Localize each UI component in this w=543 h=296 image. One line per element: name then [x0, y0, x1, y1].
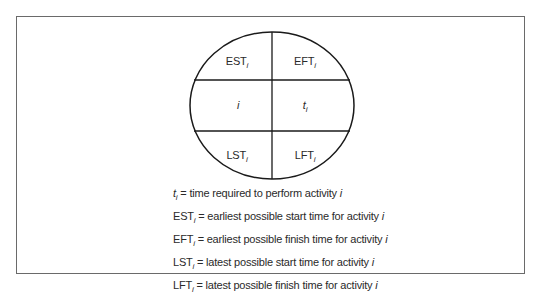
cell-eft: EFTi [294, 55, 316, 70]
legend-row-lft: LFTi = latest possible finish time for a… [173, 276, 387, 296]
cell-lft: LFTi [295, 149, 316, 164]
legend-row-eft: EFTi = earliest possible finish time for… [173, 230, 387, 253]
cell-lst: LSTi [226, 149, 247, 164]
legend-row-est: ESTi = earliest possible start time for … [173, 207, 387, 230]
cell-duration: ti [303, 99, 307, 114]
cell-activity-id: i [237, 99, 239, 111]
cell-est: ESTi [226, 55, 248, 70]
legend-row-lst: LSTi = latest possible start time for ac… [173, 253, 387, 276]
legend: ti = time required to perform activity i… [173, 184, 387, 296]
legend-row-duration: ti = time required to perform activity i [173, 184, 387, 207]
